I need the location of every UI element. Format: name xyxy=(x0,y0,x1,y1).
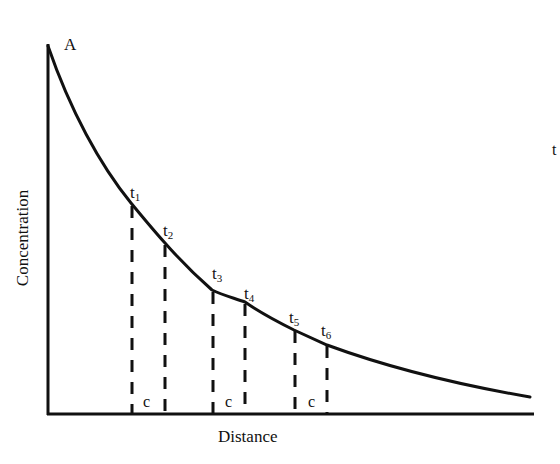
time-label-t6: t6 xyxy=(321,322,331,341)
interval-label-c2: c xyxy=(225,394,232,410)
time-label-subscript: 6 xyxy=(326,329,332,341)
edge-fragment-label: t xyxy=(552,142,556,158)
time-label-t1: t1 xyxy=(130,184,140,203)
time-label-subscript: 5 xyxy=(294,316,300,328)
panel-label: A xyxy=(64,36,76,53)
time-label-t2: t2 xyxy=(163,222,173,241)
time-label-subscript: 3 xyxy=(217,272,223,284)
time-label-t5: t5 xyxy=(289,309,299,328)
time-label-t4: t4 xyxy=(244,285,254,304)
time-label-t3: t3 xyxy=(212,265,222,284)
x-axis-label: Distance xyxy=(218,428,277,445)
y-axis-label: Concentration xyxy=(14,190,31,286)
time-label-subscript: 2 xyxy=(168,229,174,241)
interval-label-c1: c xyxy=(143,394,150,410)
time-label-subscript: 1 xyxy=(135,191,141,203)
interval-label-c3: c xyxy=(308,394,315,410)
time-label-subscript: 4 xyxy=(249,292,255,304)
concentration-distance-diagram xyxy=(0,0,560,464)
concentration-curve xyxy=(48,46,530,397)
